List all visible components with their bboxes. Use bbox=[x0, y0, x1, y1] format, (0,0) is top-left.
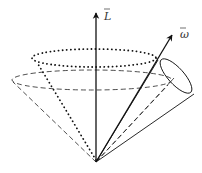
space-cone-left-edge bbox=[13, 82, 96, 162]
angular-velocity-arrow bbox=[96, 35, 172, 162]
body-cone-lower-edge bbox=[96, 94, 194, 162]
angular-velocity-label: ω bbox=[180, 28, 189, 41]
precession-diagram: L ω bbox=[0, 0, 202, 173]
dotted-cone-ellipse bbox=[32, 49, 156, 67]
dotted-cone-left-edge bbox=[38, 64, 96, 160]
space-cone-base-ellipse bbox=[12, 70, 172, 90]
angular-momentum-label: L bbox=[103, 10, 111, 23]
body-cone-hidden-edge bbox=[96, 78, 174, 162]
space-cone bbox=[12, 70, 172, 162]
dotted-cone bbox=[32, 49, 156, 160]
